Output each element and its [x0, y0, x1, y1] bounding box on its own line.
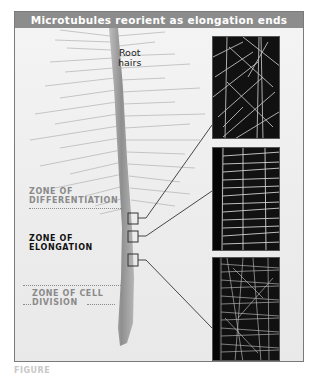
zone-cell-division-line1: ZONE OF CELL	[32, 289, 103, 298]
micrograph-differentiation	[212, 36, 280, 139]
figure-caption-partial: FIGURE	[14, 366, 50, 374]
micrograph-elongation	[212, 147, 280, 251]
boundary-dotted-line-3b	[87, 304, 115, 305]
boundary-dotted-line-3a	[23, 304, 31, 305]
zone-elongation-line2: ELONGATION	[29, 243, 93, 252]
zone-elongation-label: ZONE OF ELONGATION	[29, 234, 93, 252]
zone-differentiation-line1: ZONE OF	[29, 187, 118, 196]
root-hairs-label: Root hairs	[118, 48, 141, 68]
zone-cell-division-line2: DIVISION	[32, 298, 103, 307]
figure-title: Microtubules reorient as elongation ends	[15, 12, 303, 28]
microtubule-pattern-transverse	[213, 148, 280, 251]
micrograph-cell-division	[212, 257, 280, 361]
zone-differentiation-line2: DIFFERENTIATION	[29, 196, 118, 205]
figure-canvas: Root hairs ZONE OF DIFFERENTIATION ZONE …	[15, 28, 303, 362]
root-hairs-label-line2: hairs	[118, 58, 141, 68]
connector-lines	[138, 125, 212, 328]
zone-differentiation-label: ZONE OF DIFFERENTIATION	[29, 187, 118, 205]
boundary-dotted-line-1	[29, 208, 123, 209]
figure-frame: Microtubules reorient as elongation ends	[14, 11, 304, 362]
boundary-dotted-line-2	[23, 285, 121, 286]
microtubule-pattern-oblique	[213, 37, 280, 139]
zone-elongation-line1: ZONE OF	[29, 234, 93, 243]
microtubule-pattern-dense	[213, 258, 280, 361]
